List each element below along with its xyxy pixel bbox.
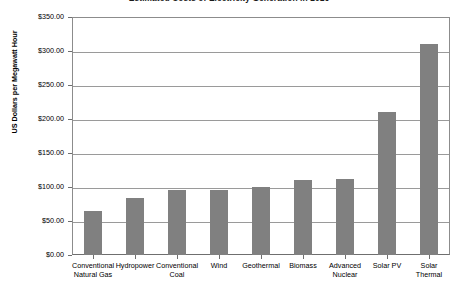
x-axis-tick-label-line: Advanced [324,261,366,270]
x-axis-tick-label: AdvancedNuclear [324,261,366,279]
bar [336,179,354,255]
x-axis-tick-label-line: Wind [198,261,240,270]
x-axis-tick-label-line: Hydropower [114,261,156,270]
x-axis-tick-label: Wind [198,261,240,270]
x-axis-tick-label: Solar Thermal [408,261,450,279]
y-axis-tick-labels: $350.00$300.00$250.00$200.00$150.00$100.… [0,0,68,296]
x-axis-tick-label: Solar PV [366,261,408,270]
x-axis-tick-label: Geothermal [240,261,282,270]
bar [378,112,396,255]
x-axis-tick-label-line: Geothermal [240,261,282,270]
x-axis-tick-label: Hydropower [114,261,156,270]
x-axis-tick-mark [93,255,94,259]
x-axis-tick-label-line: Nuclear [324,270,366,279]
bar [252,187,270,255]
x-axis-tick-mark [387,255,388,259]
y-axis-tick-mark [68,17,72,18]
x-axis-tick-mark [345,255,346,259]
y-axis-tick-label: $300.00 [38,46,64,55]
y-axis-tick-label: $0.00 [46,250,64,259]
y-axis-tick-label: $100.00 [38,182,64,191]
x-axis-tick-label-line: Biomass [282,261,324,270]
x-axis-tick-mark [177,255,178,259]
y-axis-tick-mark [68,119,72,120]
y-axis-tick-label: $250.00 [38,80,64,89]
x-axis-tick-mark [135,255,136,259]
y-axis-tick-label: $350.00 [38,12,64,21]
y-axis-tick-mark [68,187,72,188]
y-axis-tick-label: $150.00 [38,148,64,157]
chart-title: Estimated Costs of Electricity Generatio… [0,0,458,5]
x-axis-tick-label: ConventionalNatural Gas [72,261,114,279]
y-axis-tick-label: $200.00 [38,114,64,123]
x-axis-tick-label-line: Natural Gas [72,270,114,279]
y-axis-tick-mark [68,221,72,222]
y-axis-tick-mark [68,51,72,52]
bar [84,211,102,255]
bar-series [72,17,450,255]
x-axis-tick-mark [429,255,430,259]
x-axis-tick-label-line: Coal [156,270,198,279]
x-axis-tick-label: ConventionalCoal [156,261,198,279]
y-axis-tick-mark [68,85,72,86]
x-axis-tick-mark [303,255,304,259]
y-axis-tick-label: $50.00 [42,216,64,225]
bar [420,44,438,255]
x-axis: ConventionalNatural GasHydropowerConvent… [72,255,450,296]
x-axis-tick-mark [219,255,220,259]
x-axis-tick-label-line: Conventional [72,261,114,270]
x-axis-tick-label: Biomass [282,261,324,270]
x-axis-tick-label-line: Conventional [156,261,198,270]
bar [210,190,228,255]
bar [168,190,186,255]
bar [126,198,144,255]
x-axis-tick-label-line: Solar PV [366,261,408,270]
y-axis-tick-mark [68,153,72,154]
bar [294,180,312,255]
y-axis-tick-mark [68,255,72,256]
chart-page: Estimated Costs of Electricity Generatio… [0,0,458,296]
x-axis-tick-label-line: Solar Thermal [408,261,450,279]
x-axis-tick-mark [261,255,262,259]
